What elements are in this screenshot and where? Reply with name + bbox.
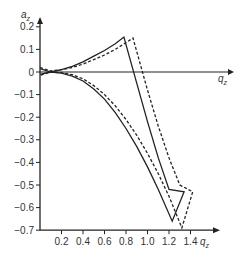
y-tick-label: −0.5 <box>14 180 34 191</box>
x-axis-title-upper: qz <box>218 73 228 86</box>
x-axis-upper-arrow-icon <box>228 69 234 75</box>
series-solid <box>40 37 184 221</box>
y-tick-label: −0.7 <box>14 225 34 236</box>
x-tick-label: 0.4 <box>76 236 90 247</box>
y-tick-label: −0.4 <box>14 157 34 168</box>
y-tick-label: −0.1 <box>14 89 34 100</box>
x-axis-lower-arrow-icon <box>213 227 220 233</box>
y-tick-label: −0.3 <box>14 134 34 145</box>
x-tick-label: 1.0 <box>141 236 155 247</box>
y-axis-title: az <box>21 9 31 22</box>
y-tick-label: 0.2 <box>20 21 34 32</box>
x-tick-label: 1.4 <box>184 236 198 247</box>
y-tick-label: 0.1 <box>20 44 34 55</box>
series-dashed <box>40 38 193 228</box>
x-tick-label: 0.2 <box>55 236 69 247</box>
x-axis-title-lower: qz <box>200 236 210 249</box>
x-tick-label: 0.6 <box>98 236 112 247</box>
ticks: 0.20.10−0.1−0.2−0.3−0.4−0.5−0.6−0.70.20.… <box>14 21 198 247</box>
plot-lines <box>40 37 193 228</box>
y-axis-arrow-icon <box>37 17 43 24</box>
y-tick-label: −0.2 <box>14 112 34 123</box>
y-tick-label: −0.6 <box>14 202 34 213</box>
chart: 0.20.10−0.1−0.2−0.3−0.4−0.5−0.6−0.70.20.… <box>0 0 240 259</box>
y-tick-label: 0 <box>28 67 34 78</box>
x-tick-label: 1.2 <box>162 236 176 247</box>
x-tick-label: 0.8 <box>119 236 133 247</box>
